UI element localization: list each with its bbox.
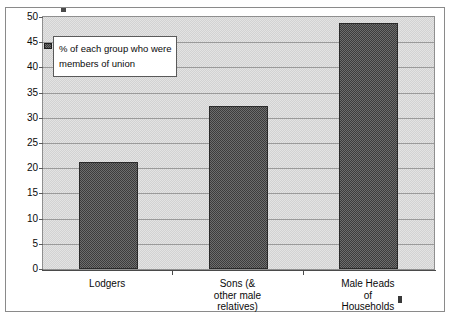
x-axis-tick-mark	[303, 270, 304, 275]
x-axis-category-label: Sons (& other male relatives)	[172, 278, 302, 313]
y-axis-tick-label: 30	[27, 113, 38, 123]
y-axis-tick-label: 35	[27, 88, 38, 98]
y-axis-tick-mark	[39, 168, 43, 169]
bar-2	[209, 106, 268, 269]
y-axis-tick-mark	[39, 17, 43, 18]
y-axis-tick-mark	[39, 219, 43, 220]
y-axis-tick-label: 40	[27, 62, 38, 72]
chart-frame: 05101520253035404550 % of each group who…	[5, 7, 445, 312]
legend-entry-label: % of each group who were members of unio…	[59, 41, 173, 71]
y-axis-tick-label: 25	[27, 138, 38, 148]
x-axis-tick-mark	[172, 270, 173, 275]
bar-1	[79, 162, 138, 269]
x-axis-line	[42, 270, 436, 271]
y-axis-tick-label: 50	[27, 12, 38, 22]
x-axis-category-label: Male Heads of Households	[303, 278, 433, 313]
y-axis-tick-mark	[39, 93, 43, 94]
y-axis-tick-label: 10	[27, 214, 38, 224]
y-axis-tick-label: 20	[27, 163, 38, 173]
y-axis-tick-label: 15	[27, 188, 38, 198]
y-axis-tick-label: 5	[32, 239, 38, 249]
scan-artifact-top	[61, 8, 66, 12]
bar-3	[339, 23, 398, 269]
y-axis-tick-mark	[39, 143, 43, 144]
x-axis-category-label: Lodgers	[42, 278, 172, 290]
y-axis-tick-mark	[39, 67, 43, 68]
y-axis-tick-mark	[39, 193, 43, 194]
y-axis-tick-label: 0	[32, 264, 38, 274]
y-axis-tick-mark	[39, 42, 43, 43]
y-axis-tick-mark	[39, 118, 43, 119]
y-axis-tick-mark	[39, 244, 43, 245]
legend-swatch-icon	[44, 43, 52, 49]
y-axis-tick-label: 45	[27, 37, 38, 47]
legend: % of each group who were members of unio…	[53, 36, 177, 77]
